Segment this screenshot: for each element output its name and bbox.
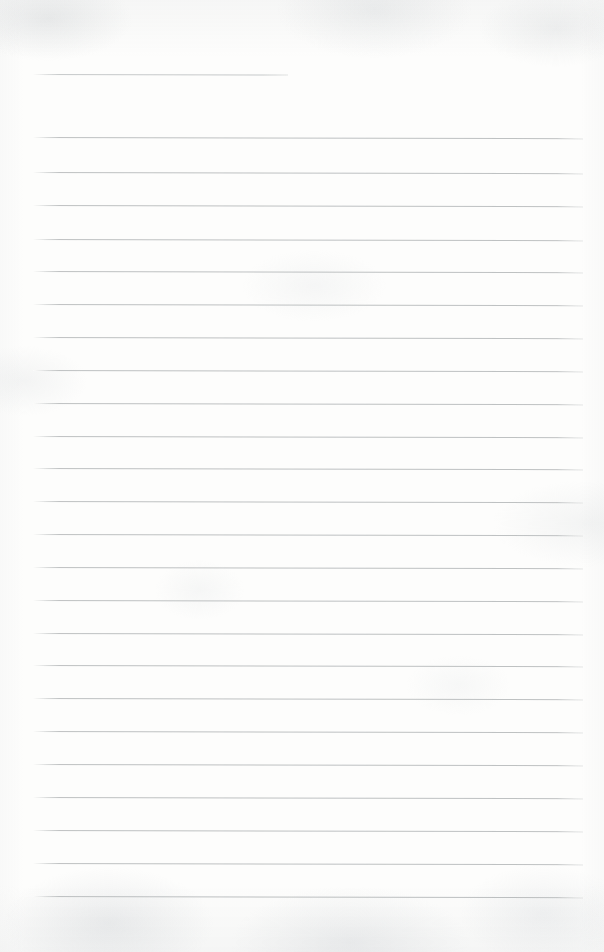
ruled-line [33,271,583,273]
ruled-line [33,567,583,569]
ruled-line [33,863,583,865]
ruled-line [33,534,583,536]
ruled-line [33,830,583,832]
ruled-line [33,600,583,602]
paper-vignette-overlay [0,0,604,952]
ruled-line [33,665,583,667]
ruled-line [33,436,583,438]
ruled-line [33,337,583,339]
ruled-line [33,172,583,174]
ruled-line [33,731,583,733]
ruled-line [33,403,583,405]
ruled-line [33,698,583,700]
ruled-line [33,896,583,898]
header-rule-line [33,74,288,76]
ruled-line [33,764,583,766]
ruled-line [33,370,583,372]
paper-texture-overlay [0,0,604,952]
ruled-line [33,137,583,139]
ruled-line [33,304,583,306]
ruled-line [33,468,583,470]
ruled-line [33,205,583,207]
ruled-line [33,633,583,635]
ruled-line [33,501,583,503]
ruled-line [33,797,583,799]
ruled-line [33,239,583,241]
lined-paper-page [0,0,604,952]
